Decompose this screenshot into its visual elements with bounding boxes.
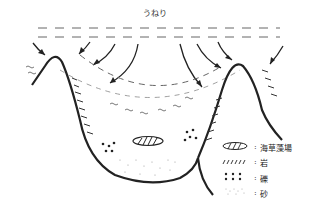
sand-area [119,159,175,175]
legend-item-gravel: : 礫 [222,172,320,186]
legend-colon: : [254,173,257,182]
legend-label: 礫 [260,173,268,184]
arrow-heads [38,47,275,87]
legend-colon: : [254,188,257,197]
legend-item-rock: : 岩 [222,156,320,170]
wave-arrows [33,42,283,87]
diagram-title: うねり [143,7,167,18]
legend-item-seagrass: : 海草藻場 [222,141,320,155]
legend-item-sand: : 砂 [222,187,320,201]
legend-label: 岩 [260,157,268,168]
swell-lines [38,28,280,37]
legend-label: 砂 [260,188,268,199]
legend-label: 海草藻場 [260,142,292,153]
coastline [32,57,213,195]
legend-colon: : [254,157,257,166]
legend-colon: : [254,142,257,151]
